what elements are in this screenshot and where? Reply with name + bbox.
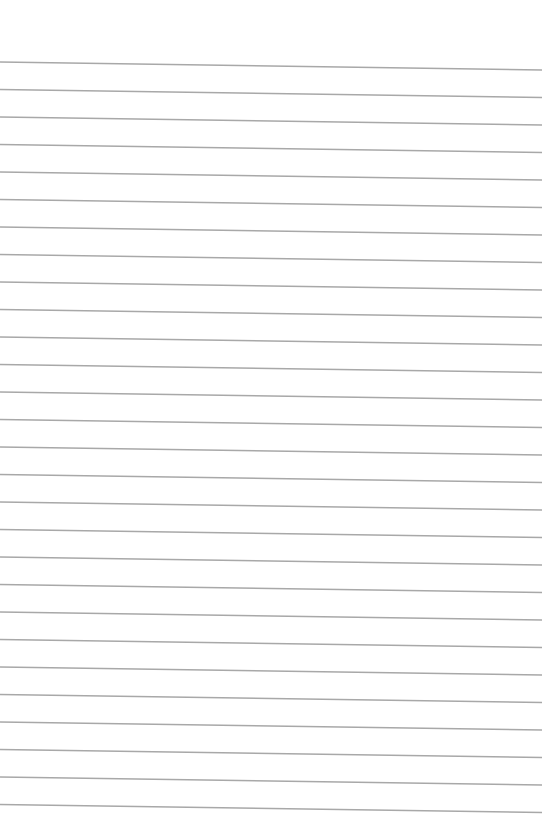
ruled-line <box>0 90 542 98</box>
ruled-line <box>0 585 542 593</box>
ruled-line <box>0 255 542 263</box>
ruled-line <box>0 777 542 785</box>
ruled-line <box>0 227 542 235</box>
ruled-line <box>0 530 542 538</box>
ruled-line <box>0 640 542 648</box>
ruled-line <box>0 722 542 730</box>
ruled-lines <box>0 0 542 831</box>
ruled-line <box>0 392 542 400</box>
ruled-line <box>0 612 542 620</box>
ruled-line <box>0 62 542 70</box>
ruled-line <box>0 475 542 483</box>
ruled-line <box>0 200 542 208</box>
ruled-line <box>0 310 542 318</box>
ruled-line <box>0 447 542 455</box>
ruled-line <box>0 337 542 345</box>
ruled-line <box>0 805 542 813</box>
ruled-line <box>0 750 542 758</box>
ruled-line <box>0 420 542 428</box>
ruled-line <box>0 117 542 125</box>
ruled-line <box>0 365 542 373</box>
ruled-line <box>0 695 542 703</box>
lined-paper-sheet <box>0 0 542 831</box>
ruled-line <box>0 282 542 290</box>
ruled-line <box>0 145 542 153</box>
ruled-line <box>0 172 542 180</box>
ruled-line <box>0 667 542 675</box>
ruled-line <box>0 557 542 565</box>
ruled-line <box>0 502 542 510</box>
